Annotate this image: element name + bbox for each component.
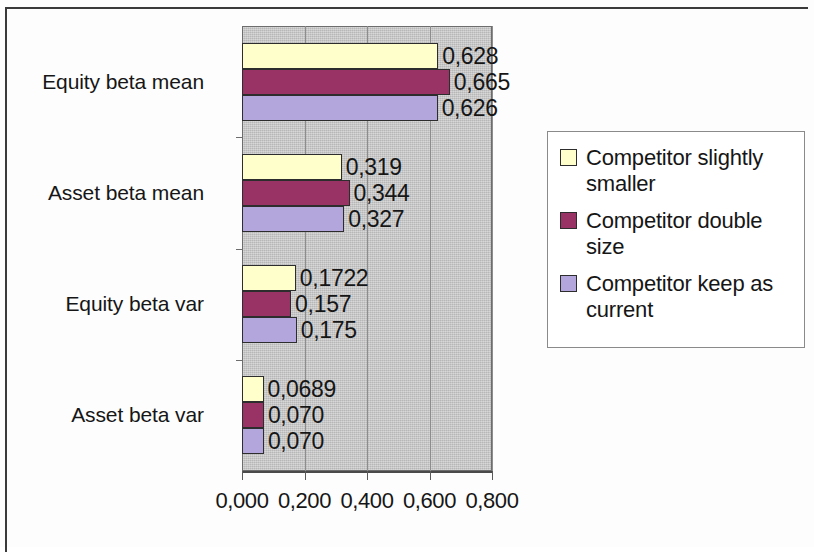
bar-value-label: 0,070	[268, 430, 324, 453]
bar-value-label: 0,344	[354, 182, 410, 205]
x-axis-tick-label: 0,600	[395, 488, 465, 514]
bar	[242, 428, 264, 454]
legend-swatch-icon	[560, 275, 577, 292]
bar-value-label: 0,1722	[300, 267, 369, 290]
legend-label: Competitor keep as current	[586, 271, 796, 323]
bar-chart: Equity beta mean0,6280,6650,626Asset bet…	[0, 0, 540, 547]
bar	[242, 154, 342, 180]
x-axis-tick-label: 0,800	[457, 488, 527, 514]
bar	[242, 317, 297, 343]
x-axis-tick-label: 0,000	[207, 488, 277, 514]
legend-label: Competitor double size	[586, 208, 796, 260]
bar	[242, 402, 264, 428]
bar	[242, 206, 344, 232]
category-label: Equity beta mean	[0, 71, 222, 92]
category-label: Equity beta var	[0, 293, 222, 314]
category-axis-tick	[236, 249, 242, 250]
category-label: Asset beta var	[0, 404, 222, 425]
category-label: Asset beta mean	[0, 182, 222, 203]
bar	[242, 265, 296, 291]
x-axis-tick	[430, 471, 431, 480]
chart-legend: Competitor slightly smallerCompetitor do…	[547, 131, 805, 348]
bar-value-label: 0,628	[442, 45, 498, 68]
category-axis-tick	[236, 360, 242, 361]
bar-value-label: 0,0689	[268, 378, 337, 401]
legend-item: Competitor slightly smaller	[560, 145, 796, 197]
x-axis-tick	[242, 471, 243, 480]
bar	[242, 291, 291, 317]
bar	[242, 180, 350, 206]
x-axis-tick	[305, 471, 306, 480]
bar-value-label: 0,175	[301, 319, 357, 342]
legend-swatch-icon	[560, 149, 577, 166]
x-axis-tick-label: 0,400	[332, 488, 402, 514]
x-axis-tick	[367, 471, 368, 480]
bar-value-label: 0,070	[268, 404, 324, 427]
bar-value-label: 0,626	[442, 97, 498, 120]
bar-value-label: 0,665	[454, 71, 510, 94]
bar	[242, 69, 450, 95]
bar	[242, 43, 438, 69]
bar-value-label: 0,319	[346, 156, 402, 179]
category-axis-tick	[236, 137, 242, 138]
bar-value-label: 0,327	[348, 208, 404, 231]
bar	[242, 376, 264, 402]
bar	[242, 95, 438, 121]
legend-swatch-icon	[560, 212, 577, 229]
legend-item: Competitor keep as current	[560, 271, 796, 323]
x-axis-tick	[492, 471, 493, 480]
legend-item: Competitor double size	[560, 208, 796, 260]
bar-value-label: 0,157	[295, 293, 351, 316]
x-axis-tick-label: 0,200	[270, 488, 340, 514]
legend-label: Competitor slightly smaller	[586, 145, 796, 197]
